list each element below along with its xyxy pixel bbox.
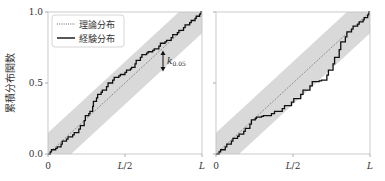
y-tick-label-1: 1.0 — [29, 7, 44, 17]
x-tick-label-half-left: L/2 — [117, 161, 133, 171]
x-tick-half-suffix: /2 — [292, 161, 301, 171]
k-label: k0.05 — [167, 56, 186, 67]
legend-empirical-label: 経験分布 — [79, 33, 115, 44]
x-tick-half-suffix: /2 — [124, 161, 133, 171]
x-tick-label-0-right: 0 — [213, 161, 219, 171]
x-tick-L-symbol: L — [117, 161, 124, 171]
x-tick-label-0-left: 0 — [45, 161, 51, 171]
x-tick-label-half-right: L/2 — [285, 161, 301, 171]
x-tick-L-symbol: L — [285, 161, 292, 171]
y-tick-label-0: 0.0 — [29, 149, 44, 159]
y-axis-label: 累積分布関数 — [4, 53, 16, 113]
legend: 理論分布 経験分布 — [52, 15, 124, 47]
x-tick-label-L-left: L — [198, 161, 205, 171]
y-tick-label-05: 0.5 — [29, 78, 44, 88]
cdf-comparison-figure: 累積分布関数 1.0 0.5 0.0 0 L/2 L 0 L/2 L 理論分布 … — [0, 0, 385, 181]
legend-theory-label: 理論分布 — [79, 19, 115, 30]
right-plot-panel — [213, 12, 370, 157]
x-tick-label-L-right: L — [366, 161, 373, 171]
